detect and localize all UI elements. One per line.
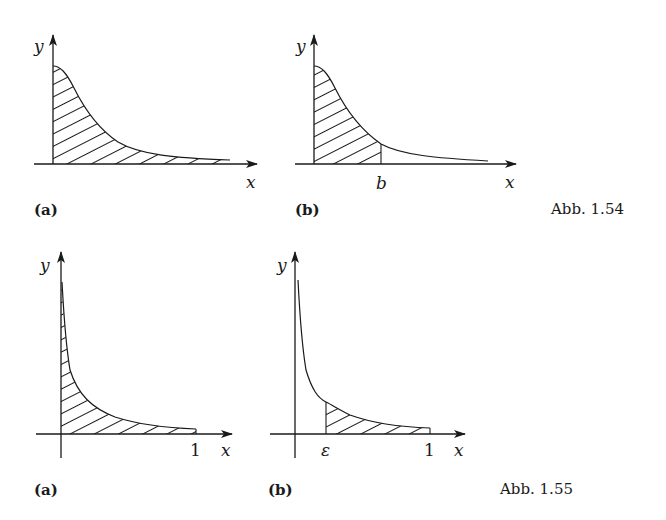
x-axis-label: x	[454, 440, 464, 460]
curve	[298, 280, 430, 428]
hatched-area	[40, 40, 270, 170]
panel-label: (b)	[295, 201, 320, 219]
hatched-area	[300, 40, 400, 170]
y-axis-label: y	[276, 255, 287, 275]
figure-caption-1-54: Abb. 1.54	[550, 200, 624, 218]
figure-1-54-panel-a: y x (a)	[33, 35, 270, 219]
figure-1-55-panel-a: y 1 x (a)	[34, 252, 232, 499]
figure-1-55-panel-b: y ε 1 x (b)	[268, 252, 465, 499]
y-axis-label: y	[33, 36, 44, 56]
hatched-area	[320, 390, 440, 440]
hatched-area	[55, 270, 205, 440]
tick-label-1: 1	[190, 440, 201, 460]
x-axis-label: x	[246, 172, 256, 192]
tick-label-b: b	[376, 173, 387, 193]
y-axis-label: y	[39, 255, 50, 275]
figure-caption-1-55: Abb. 1.55	[499, 480, 573, 498]
x-axis-label: x	[505, 172, 515, 192]
figure-canvas: y x (a) y b x (b) Abb. 1.54 y 1 x (a) y	[0, 0, 666, 520]
figure-1-54-panel-b: y b x (b)	[295, 35, 516, 219]
x-axis-label: x	[221, 440, 231, 460]
tick-label-epsilon: ε	[321, 440, 330, 460]
tick-label-1: 1	[424, 440, 435, 460]
panel-label: (a)	[34, 481, 58, 499]
y-axis-label: y	[295, 36, 306, 56]
panel-label: (a)	[34, 201, 58, 219]
panel-label: (b)	[268, 481, 293, 499]
